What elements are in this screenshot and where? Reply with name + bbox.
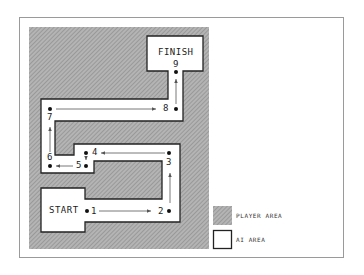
waypoint-label-3: 3 [166, 158, 172, 167]
waypoint-label-2: 2 [158, 207, 164, 216]
legend-ai-swatch [214, 231, 232, 249]
legend-player-label: PLAYER AREA [236, 213, 282, 219]
waypoint-label-6: 6 [47, 153, 53, 162]
legend-player-swatch [213, 206, 232, 225]
waypoint-label-4: 4 [92, 148, 98, 157]
waypoint-label-9: 9 [173, 60, 179, 69]
waypoint-label-5: 5 [76, 161, 82, 170]
start-label: START [49, 206, 79, 215]
waypoint-label-8: 8 [163, 104, 169, 113]
waypoint-label-7: 7 [47, 113, 53, 122]
legend-ai-label: AI AREA [236, 237, 266, 243]
waypoint-label-1: 1 [91, 207, 97, 216]
finish-label: FINISH [158, 48, 194, 57]
path-diagram [0, 0, 364, 275]
